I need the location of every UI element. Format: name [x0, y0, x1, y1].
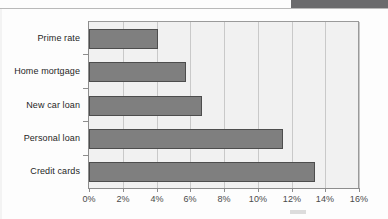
plot-area	[89, 21, 359, 188]
x-tick-8%	[224, 188, 225, 192]
y-axis-label-credit-cards: Credit cards	[30, 166, 80, 176]
x-axis-label: 8%	[217, 194, 230, 204]
x-tick-6%	[190, 188, 191, 192]
y-tick	[83, 155, 89, 156]
x-tick-16%	[359, 188, 360, 192]
y-axis-label-personal-loan: Personal loan	[24, 133, 80, 143]
gridline-14%	[325, 22, 326, 189]
y-tick	[83, 54, 89, 55]
x-axis-label: 0%	[82, 194, 95, 204]
bar-new-car-loan	[89, 96, 202, 116]
bar-prime-rate	[89, 29, 158, 49]
x-tick-0%	[89, 188, 90, 192]
x-axis-label: 6%	[183, 194, 196, 204]
y-tick	[83, 88, 89, 89]
y-axis-labels-group: Prime rateHome mortgageNew car loanPerso…	[0, 21, 80, 188]
x-axis-label: 14%	[316, 194, 334, 204]
x-tick-10%	[258, 188, 259, 192]
x-tick-12%	[292, 188, 293, 192]
x-axis-label: 16%	[350, 194, 368, 204]
x-axis-label: 12%	[283, 194, 301, 204]
bar-credit-cards	[89, 162, 315, 182]
bar-personal-loan	[89, 129, 283, 149]
y-axis-label-new-car-loan: New car loan	[26, 100, 80, 110]
y-axis-line	[88, 21, 89, 189]
x-tick-14%	[325, 188, 326, 192]
bar-chart: 0%2%4%6%8%10%12%14%16% Prime rateHome mo…	[0, 9, 388, 219]
page-top-dark-band	[291, 0, 388, 8]
x-axis-label: 4%	[150, 194, 163, 204]
x-axis-label: 2%	[116, 194, 129, 204]
x-tick-4%	[157, 188, 158, 192]
x-axis-label: 10%	[249, 194, 267, 204]
y-axis-label-prime-rate: Prime rate	[37, 33, 80, 43]
gridline-16%	[359, 22, 360, 189]
bar-home-mortgage	[89, 62, 186, 82]
x-tick-2%	[123, 188, 124, 192]
y-axis-label-home-mortgage: Home mortgage	[14, 66, 80, 76]
y-tick	[83, 121, 89, 122]
scanned-page: 0%2%4%6%8%10%12%14%16% Prime rateHome mo…	[0, 0, 388, 219]
